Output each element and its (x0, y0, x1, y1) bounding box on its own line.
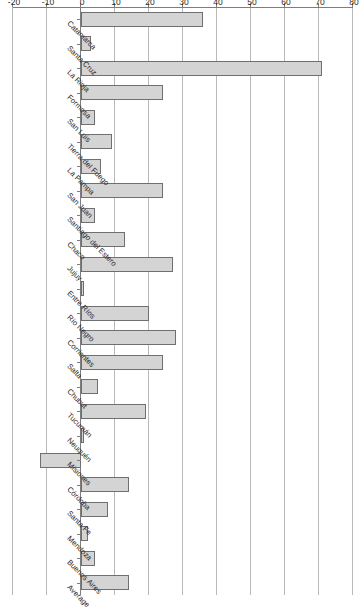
gridline (46, 7, 47, 595)
category-axis-tick (77, 142, 81, 143)
bar (81, 12, 203, 27)
category-axis-tick (77, 215, 81, 216)
category-axis-tick (77, 485, 81, 486)
value-axis-tick-label: 30 (167, 0, 201, 7)
category-axis-tick (77, 117, 81, 118)
bar (81, 281, 84, 296)
value-axis-tick-label: 40 (201, 0, 235, 7)
category-axis-tick (77, 44, 81, 45)
category-axis-tick (77, 534, 81, 535)
gridline (12, 7, 13, 595)
category-axis-tick (77, 460, 81, 461)
category-axis-tick (77, 436, 81, 437)
value-axis-tick-label: 60 (269, 0, 303, 7)
category-axis-tick (77, 583, 81, 584)
category-axis-tick (77, 264, 81, 265)
category-axis-tick (77, 166, 81, 167)
value-axis-tick-label: 70 (303, 0, 337, 7)
gridline (216, 7, 217, 595)
category-axis-tick (77, 509, 81, 510)
category-axis-tick (77, 68, 81, 69)
category-axis-tick (77, 362, 81, 363)
category-axis-tick (77, 558, 81, 559)
category-axis-tick (77, 387, 81, 388)
category-axis-tick (77, 289, 81, 290)
category-axis-tick (77, 19, 81, 20)
value-axis-tick-label: 0 (65, 0, 99, 7)
value-axis-tick-label: 20 (133, 0, 167, 7)
category-axis-tick (77, 411, 81, 412)
value-axis-tick-label: 10 (99, 0, 133, 7)
category-axis-tick (77, 93, 81, 94)
value-axis-tick-label: 80 (337, 0, 361, 7)
value-axis-tick-label: -20 (0, 0, 31, 7)
value-axis-tick-label: -10 (31, 0, 65, 7)
bar (81, 61, 322, 76)
value-axis-tick-label: 50 (235, 0, 269, 7)
gridline (318, 7, 319, 595)
category-axis-tick (77, 191, 81, 192)
bar (81, 85, 163, 100)
gridline (250, 7, 251, 595)
gridline (182, 7, 183, 595)
gridline (352, 7, 353, 595)
category-axis-tick (77, 313, 81, 314)
bar (81, 379, 98, 394)
category-axis-tick (77, 240, 81, 241)
gridline (284, 7, 285, 595)
bar (81, 404, 146, 419)
bar (81, 257, 173, 272)
value-axis-spine (13, 7, 353, 8)
category-axis-tick (77, 338, 81, 339)
